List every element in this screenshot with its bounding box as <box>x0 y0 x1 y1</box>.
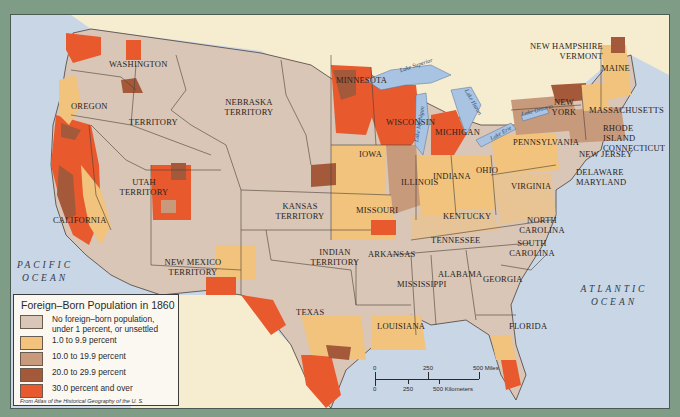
legend-swatch <box>20 368 43 382</box>
label-south-carolina: SOUTH CAROLINA <box>507 238 557 258</box>
label-alabama: ALABAMA <box>438 269 482 279</box>
label-utah-territory: UTAH TERRITORY <box>117 177 171 197</box>
label-rhode-island-connecticut: RHODE ISLAND CONNECTICUT <box>603 123 667 153</box>
label-texas: TEXAS <box>296 307 324 317</box>
legend-label-line2: under 1 percent, or unsettled <box>52 324 158 334</box>
label-iowa: IOWA <box>359 149 382 159</box>
legend-item-1-9: 1.0 to 9.9 percent <box>20 336 117 350</box>
label-nebraska-territory: NEBRASKA TERRITORY <box>219 97 279 117</box>
scale-bar: 0 250 500 Miles 0 250 500 Kilometers <box>373 367 503 397</box>
map-frame: WASHINGTON OREGON TERRITORY NEBRASKA TER… <box>10 14 670 409</box>
label-oregon: OREGON <box>71 101 108 111</box>
missouri-30 <box>371 220 396 235</box>
label-maine: MAINE <box>601 63 630 73</box>
label-virginia: VIRGINIA <box>511 181 551 191</box>
maine-20 <box>611 37 625 53</box>
label-wisconsin: WISCONSIN <box>386 117 435 127</box>
label-florida: FLORIDA <box>509 321 547 331</box>
label-new-mexico-territory: NEW MEXICO TERRITORY <box>153 257 233 277</box>
label-missouri: MISSOURI <box>356 205 398 215</box>
label-kansas-territory: KANSAS TERRITORY <box>273 201 327 221</box>
scale-miles-max: 500 Miles <box>473 365 499 371</box>
label-pacific-ocean: PACIFIC OCEAN <box>15 259 75 285</box>
label-tennessee: TENNESSEE <box>431 235 481 245</box>
label-kentucky: KENTUCKY <box>443 211 491 221</box>
label-arkansas: ARKANSAS <box>368 249 415 259</box>
legend-label: 10.0 to 19.9 percent <box>52 352 126 362</box>
legend-item-30-plus: 30.0 percent and over <box>20 384 133 398</box>
label-minnesota: MINNESOTA <box>336 75 387 85</box>
legend-swatch <box>20 315 43 329</box>
label-new-hampshire-vermont: NEW HAMPSHIRE VERMONT <box>523 41 603 61</box>
scale-km-max: 500 Kilometers <box>433 386 473 392</box>
legend-label: 20.0 to 29.9 percent <box>52 368 126 378</box>
legend-swatch <box>20 384 43 398</box>
legend-label: No foreign–born population, <box>52 314 154 324</box>
wash-patch <box>126 40 141 60</box>
label-washington: WASHINGTON <box>109 59 168 69</box>
label-indian-territory: INDIAN TERRITORY <box>307 247 363 267</box>
label-pennsylvania: PENNSYLVANIA <box>513 137 579 147</box>
label-massachusetts: MASSACHUSETTS <box>589 105 664 115</box>
label-ohio: OHIO <box>476 165 498 175</box>
label-atlantic-ocean: ATLANTIC OCEAN <box>579 283 649 309</box>
label-georgia: GEORGIA <box>483 274 523 284</box>
kansas-mix <box>311 163 336 187</box>
utah-10 <box>161 200 176 213</box>
label-mississippi: MISSISSIPPI <box>397 279 446 289</box>
label-new-york: NEW YORK <box>549 97 579 117</box>
tx-20 <box>326 345 351 360</box>
label-michigan: MICHIGAN <box>435 127 480 137</box>
label-territory: TERRITORY <box>129 117 178 127</box>
legend-label: 30.0 percent and over <box>52 384 133 394</box>
utah-20 <box>171 163 186 180</box>
label-delaware-maryland: DELAWARE MARYLAND <box>576 167 626 187</box>
label-louisiana: LOUISIANA <box>377 321 425 331</box>
legend: Foreign–Born Population in 1860 No forei… <box>13 294 179 406</box>
scale-miles-zero: 0 <box>373 365 376 371</box>
legend-item-10-19: 10.0 to 19.9 percent <box>20 352 126 366</box>
label-indiana: INDIANA <box>433 171 471 181</box>
ohio-1 <box>451 155 496 210</box>
label-california: CALIFORNIA <box>53 215 106 225</box>
legend-item-20-29: 20.0 to 29.9 percent <box>20 368 126 382</box>
scale-miles-mid: 250 <box>423 365 433 371</box>
legend-title: Foreign–Born Population in 1860 <box>21 299 175 311</box>
scale-km-mid: 250 <box>403 386 413 392</box>
label-north-carolina: NORTH CAROLINA <box>517 215 567 235</box>
legend-item-none: No foreign–born population,under 1 perce… <box>20 315 158 334</box>
legend-label: 1.0 to 9.9 percent <box>52 336 117 346</box>
scale-km-zero: 0 <box>373 386 376 392</box>
nm-30 <box>206 277 236 295</box>
legend-swatch <box>20 352 43 366</box>
legend-source: From Atlas of the Historical Geography o… <box>20 398 144 405</box>
legend-swatch <box>20 336 43 350</box>
